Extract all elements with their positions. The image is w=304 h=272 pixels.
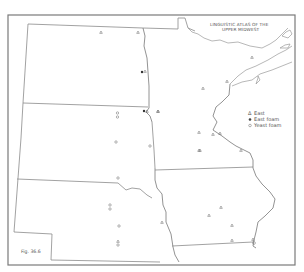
yeast-foam-marker — [118, 225, 120, 227]
east-foam-marker — [143, 110, 145, 112]
map-title-line2: UPPER MIDWEST — [222, 27, 260, 32]
east-marker — [220, 206, 223, 208]
figure-label: Fig. 36.6 — [21, 249, 41, 254]
east-marker — [252, 238, 255, 240]
east-marker — [202, 87, 205, 89]
north-border — [28, 18, 195, 31]
east-marker — [117, 240, 120, 242]
east-foam-symbols — [141, 71, 145, 112]
east-marker — [161, 221, 164, 223]
east-marker — [137, 31, 140, 33]
yeast-foam-marker — [109, 204, 111, 206]
sd-ne-border — [17, 179, 152, 198]
mn-ia-border — [155, 167, 253, 170]
yeast-foam-marker — [116, 112, 118, 114]
isle-royale — [282, 30, 292, 38]
keweenaw-peninsula — [280, 44, 290, 48]
missouri-river — [155, 168, 179, 262]
mn-sd-border — [152, 122, 155, 168]
east-foam-marker — [141, 71, 143, 73]
east-marker — [212, 133, 215, 135]
east-marker — [157, 110, 160, 112]
east-marker — [144, 70, 147, 72]
yeast-foam-marker — [117, 177, 119, 179]
legend-east-icon: Δ — [248, 110, 252, 116]
ia-south-border — [172, 242, 253, 246]
red-river — [143, 28, 152, 122]
yeast-foam-marker — [115, 141, 117, 143]
yeast-foam-marker — [109, 208, 111, 210]
ne-panhandle-border — [14, 232, 160, 262]
legend: Δ East East foam Yeast foam — [248, 110, 282, 128]
east-marker — [251, 56, 254, 58]
east-marker — [226, 80, 229, 82]
east-marker — [219, 132, 222, 134]
yeast-foam-marker — [116, 116, 118, 118]
yeast-foam-marker — [149, 145, 151, 147]
apostle-islands — [256, 76, 260, 84]
east-marker — [208, 214, 211, 216]
legend-east-foam-icon — [249, 118, 252, 121]
mississippi-river — [222, 136, 275, 248]
western-state-border — [14, 24, 28, 232]
map-frame — [8, 15, 295, 265]
map-canvas: LINGUISTIC ATLAS OF THE UPPER MIDWEST Δ … — [0, 0, 304, 272]
yeast-foam-symbols — [109, 112, 256, 246]
st-croix-river — [213, 84, 230, 136]
legend-yeast-foam-icon — [249, 124, 252, 127]
lake-superior-south-shore — [230, 46, 292, 84]
east-marker — [231, 224, 234, 226]
nd-sd-border — [23, 103, 148, 107]
east-symbols — [100, 31, 255, 242]
east-marker — [231, 239, 234, 241]
east-marker — [100, 31, 103, 33]
yeast-foam-marker — [117, 244, 119, 246]
legend-label-yeast-foam: Yeast foam — [253, 122, 282, 128]
east-marker — [198, 131, 201, 133]
